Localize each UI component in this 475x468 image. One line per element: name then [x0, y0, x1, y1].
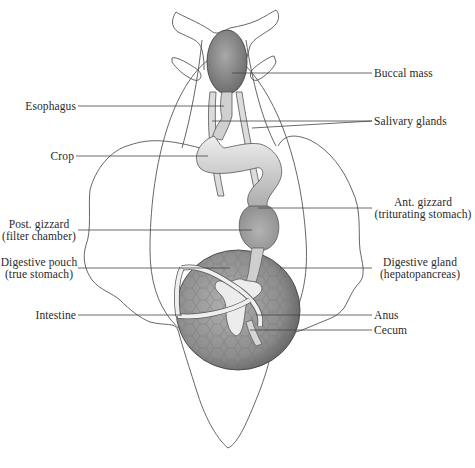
label-ant-gizzard-line1: Ant. gizzard [372, 196, 474, 208]
label-crop: Crop [0, 150, 74, 162]
digestive-system-diagram: Buccal mass Salivary glands Ant. gizzard… [0, 0, 475, 468]
label-ant-gizzard-line2: (triturating stomach) [372, 208, 474, 220]
label-digestive-pouch: Digestive pouch (true stomach) [0, 256, 78, 280]
label-digestive-pouch-line2: (true stomach) [0, 268, 78, 280]
label-post-gizzard-line1: Post. gizzard [0, 218, 78, 230]
crop [196, 136, 281, 210]
label-digestive-gland-line1: Digestive gland [372, 256, 468, 268]
label-post-gizzard: Post. gizzard (filter chamber) [0, 218, 78, 242]
label-ant-gizzard: Ant. gizzard (triturating stomach) [372, 196, 474, 220]
buccal-mass [207, 30, 247, 94]
ant-gizzard [239, 206, 279, 251]
label-salivary-glands: Salivary glands [374, 115, 447, 127]
label-digestive-gland-line2: (hepatopancreas) [372, 268, 468, 280]
label-post-gizzard-line2: (filter chamber) [0, 230, 78, 242]
label-cecum: Cecum [374, 324, 407, 336]
label-digestive-gland: Digestive gland (hepatopancreas) [372, 256, 468, 280]
label-anus: Anus [374, 309, 399, 321]
label-intestine: Intestine [0, 309, 76, 321]
label-digestive-pouch-line1: Digestive pouch [0, 256, 78, 268]
label-esophagus: Esophagus [0, 100, 76, 112]
label-buccal-mass: Buccal mass [374, 67, 433, 79]
